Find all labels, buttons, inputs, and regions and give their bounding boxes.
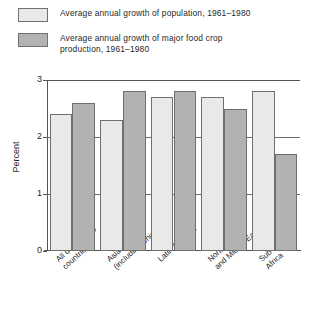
bar-population-5 — [252, 91, 275, 251]
bar-food-crop-1 — [72, 103, 95, 251]
bar-food-crop-4 — [224, 109, 247, 252]
bar-population-3 — [151, 97, 174, 251]
y-tick-label-2: 2 — [26, 131, 42, 141]
y-tick-2: 2 — [26, 131, 42, 143]
y-axis-label: Percent — [11, 127, 21, 187]
y-tick-label-3: 3 — [26, 74, 42, 84]
y-tick-1: 1 — [26, 188, 42, 200]
y-tick-0: 0 — [26, 245, 42, 257]
y-tick-label-0: 0 — [26, 245, 42, 255]
bar-chart: 0123 Percent All developing countriesAsi… — [0, 0, 314, 324]
y-tick-3: 3 — [26, 74, 42, 86]
bars-container — [47, 80, 300, 251]
bar-population-2 — [100, 120, 123, 251]
bar-population-4 — [201, 97, 224, 251]
bar-food-crop-5 — [275, 154, 298, 251]
bar-population-1 — [50, 114, 73, 251]
bar-food-crop-2 — [123, 91, 146, 251]
bar-food-crop-3 — [174, 91, 197, 251]
y-tick-label-1: 1 — [26, 188, 42, 198]
